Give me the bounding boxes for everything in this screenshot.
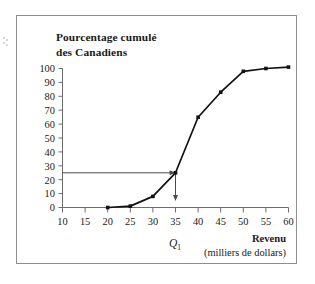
data-point: [151, 195, 155, 199]
page-margin-artifact: [2, 36, 9, 47]
x-axis-ticks: [63, 208, 289, 213]
x-tick-label: 30: [148, 216, 158, 227]
y-tick-label: 90: [45, 77, 55, 88]
data-point: [264, 67, 268, 71]
x-tick-label: 20: [103, 216, 113, 227]
y-tick-label: 20: [45, 175, 55, 186]
data-point: [174, 171, 178, 175]
data-point: [242, 70, 246, 74]
y-tick-label: 100: [39, 63, 55, 74]
x-tick-label: 15: [80, 216, 90, 227]
x-axis-caption-main: Revenu: [252, 233, 286, 244]
x-tick-label: 40: [193, 216, 203, 227]
x-tick-label: 45: [216, 216, 226, 227]
y-tick-label: 80: [45, 91, 55, 102]
data-point: [106, 206, 110, 210]
chart-frame: Pourcentage cumulé des Canadiens: [16, 15, 297, 264]
x-axis-caption-units: (milliers de dollars): [204, 247, 286, 259]
quartile-guide-horizontal: [63, 170, 176, 175]
y-tick-label: 60: [45, 119, 55, 130]
cumulative-curve: [108, 67, 289, 207]
y-axis-ticks: [59, 69, 63, 208]
quartile-label: Q1: [169, 237, 181, 252]
data-point: [287, 65, 291, 69]
x-tick-label: 60: [283, 216, 293, 227]
plot-area: 100 90 80 70 60 50 40 30 20 10 0: [17, 16, 298, 265]
x-tick-label: 10: [57, 216, 67, 227]
data-point: [196, 115, 200, 119]
data-point: [129, 204, 133, 208]
x-tick-label: 50: [238, 216, 248, 227]
x-tick-label: 25: [125, 216, 135, 227]
y-tick-label: 30: [45, 161, 55, 172]
x-axis-tick-labels: 10 15 20 25 30 35 40 45 50 55 60: [57, 216, 293, 227]
y-tick-label: 40: [45, 147, 55, 158]
quartile-guide-vertical: [173, 173, 178, 201]
figure-root: Pourcentage cumulé des Canadiens: [0, 0, 315, 284]
quartile-subscript: 1: [177, 243, 181, 252]
y-tick-label: 70: [45, 105, 55, 116]
y-axis-tick-labels: 100 90 80 70 60 50 40 30 20 10 0: [39, 63, 55, 213]
data-point: [219, 90, 223, 94]
x-tick-label: 55: [261, 216, 271, 227]
y-tick-label: 10: [45, 188, 55, 199]
y-tick-label: 0: [50, 202, 55, 213]
y-tick-label: 50: [45, 133, 55, 144]
data-point-markers: [106, 65, 290, 209]
x-tick-label: 35: [170, 216, 180, 227]
